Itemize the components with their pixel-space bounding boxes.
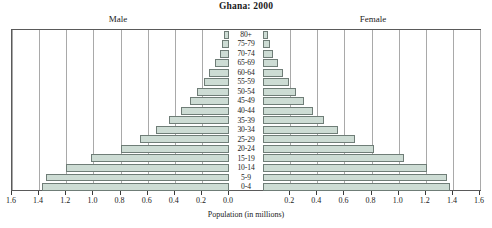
axis-tick-label: 0.8: [105, 196, 135, 206]
male-bar: [220, 50, 229, 58]
male-bar: [204, 78, 229, 86]
male-bar-cell: [12, 154, 229, 164]
male-bar: [42, 183, 229, 191]
pyramid-row: 65-69: [12, 59, 480, 69]
female-bar-cell: [263, 49, 480, 59]
age-label-cell: 5-9: [229, 173, 263, 183]
age-group-label: 50-54: [229, 87, 263, 97]
pyramid-row: 80+: [12, 30, 480, 40]
male-bar: [46, 174, 229, 182]
male-bar: [215, 59, 229, 67]
age-group-label: 30-34: [229, 125, 263, 135]
male-bar-cell: [12, 78, 229, 88]
chart-title: Ghana: 2000: [0, 1, 492, 12]
female-bar-cell: [263, 106, 480, 116]
axis-tick: [38, 191, 39, 195]
age-label-cell: 65-69: [229, 59, 263, 69]
age-group-label: 25-29: [229, 135, 263, 145]
male-bar-cell: [12, 59, 229, 69]
female-bar: [263, 78, 289, 86]
axis-tick-label: 0.2: [186, 196, 216, 206]
axis-tick-label: 1.4: [437, 196, 467, 206]
age-group-label: 70-74: [229, 49, 263, 59]
age-label-cell: 55-59: [229, 78, 263, 88]
axis-tick-label: 0.8: [356, 196, 386, 206]
axis-tick: [201, 191, 202, 195]
female-bar-cell: [263, 97, 480, 107]
age-group-label: 60-64: [229, 68, 263, 78]
female-side-label: Female: [343, 14, 403, 25]
axis-tick: [425, 191, 426, 195]
axis-tick: [316, 191, 317, 195]
male-bar: [222, 40, 229, 48]
plot-area: 80+75-7970-7465-6960-6455-5950-5445-4940…: [11, 29, 481, 191]
male-bar-cell: [12, 125, 229, 135]
age-label-cell: 35-39: [229, 116, 263, 126]
axis-tick: [174, 191, 175, 195]
female-bar: [263, 164, 427, 172]
age-label-cell: 25-29: [229, 135, 263, 145]
axis-tick-label: 0.2: [274, 196, 304, 206]
male-bar: [197, 88, 229, 96]
age-group-label: 10-14: [229, 163, 263, 173]
female-bar-cell: [263, 144, 480, 154]
female-bar: [263, 135, 355, 143]
age-label-cell: 60-64: [229, 68, 263, 78]
female-bar-cell: [263, 87, 480, 97]
female-bar: [263, 145, 374, 153]
axis-tick: [479, 191, 480, 195]
axis-tick-label: 1.2: [50, 196, 80, 206]
male-bar-cell: [12, 68, 229, 78]
age-label-cell: 50-54: [229, 87, 263, 97]
age-label-cell: 30-34: [229, 125, 263, 135]
axis-tick-label: 0.4: [301, 196, 331, 206]
axis-tick-label: 1.6: [0, 196, 26, 206]
female-bar-cell: [263, 59, 480, 69]
female-bar: [263, 59, 278, 67]
axis-tick: [371, 191, 372, 195]
male-bar-cell: [12, 97, 229, 107]
age-group-label: 15-19: [229, 154, 263, 164]
axis-tick-label: 1.4: [23, 196, 53, 206]
pyramid-row: 55-59: [12, 78, 480, 88]
axis-tick: [11, 191, 12, 195]
pyramid-row: 5-9: [12, 173, 480, 183]
axis-tick-label: 0.0: [213, 196, 243, 206]
female-bar: [263, 88, 296, 96]
axis-tick-label: 1.2: [410, 196, 440, 206]
female-bar-cell: [263, 68, 480, 78]
male-bar-cell: [12, 116, 229, 126]
axis-tick-label: 0.6: [328, 196, 358, 206]
axis-tick-label: 0.6: [132, 196, 162, 206]
axis-tick: [452, 191, 453, 195]
age-label-cell: 70-74: [229, 49, 263, 59]
age-group-label: 75-79: [229, 40, 263, 50]
female-bar: [263, 31, 268, 39]
pyramid-row: 40-44: [12, 106, 480, 116]
age-label-cell: 20-24: [229, 144, 263, 154]
male-bar-cell: [12, 87, 229, 97]
male-bar: [121, 145, 230, 153]
female-bar-cell: [263, 30, 480, 40]
female-bar-cell: [263, 125, 480, 135]
male-bar: [140, 135, 230, 143]
male-bar: [91, 154, 229, 162]
pyramid-row: 75-79: [12, 40, 480, 50]
male-bar-cell: [12, 106, 229, 116]
female-bar-cell: [263, 154, 480, 164]
axis-tick: [147, 191, 148, 195]
female-bar: [263, 50, 273, 58]
male-bar-cell: [12, 163, 229, 173]
female-bar-cell: [263, 116, 480, 126]
axis-tick-label: 1.6: [464, 196, 492, 206]
age-label-cell: 40-44: [229, 106, 263, 116]
male-bar: [209, 69, 229, 77]
female-bar: [263, 40, 270, 48]
axis-tick-label: 0.4: [159, 196, 189, 206]
pyramid-row: 60-64: [12, 68, 480, 78]
pyramid-row: 10-14: [12, 163, 480, 173]
axis-tick: [398, 191, 399, 195]
female-bar-cell: [263, 163, 480, 173]
age-group-label: 5-9: [229, 173, 263, 183]
axis-tick: [92, 191, 93, 195]
